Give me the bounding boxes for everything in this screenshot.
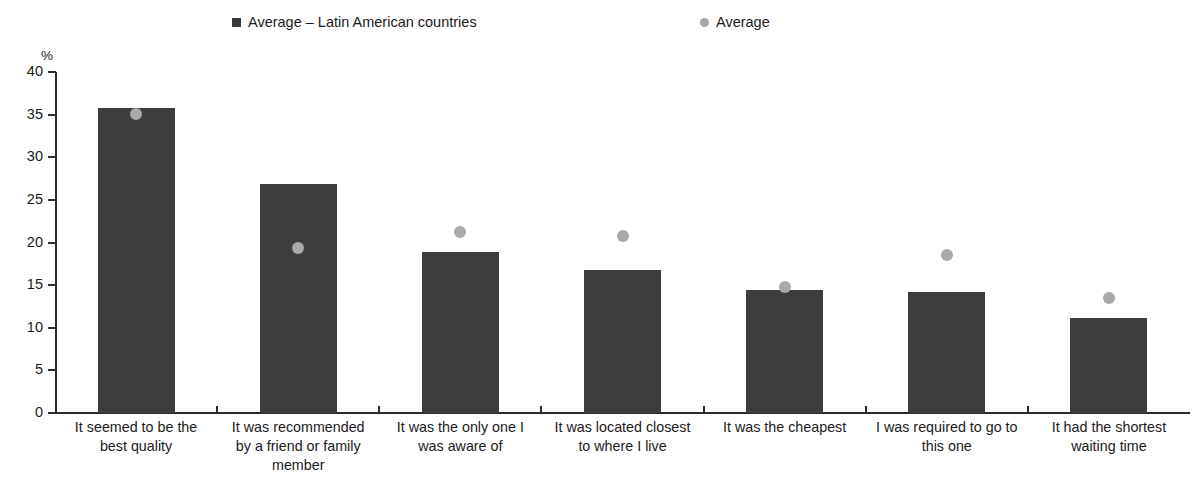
y-axis-tick <box>48 114 56 116</box>
legend-label-average: Average <box>716 14 770 30</box>
x-axis-category-label: It was the cheapest <box>704 418 866 437</box>
x-axis-category-label: It was the only one I was aware of <box>379 418 541 456</box>
legend-item-average[interactable]: Average <box>700 14 770 30</box>
y-axis-tick-label: 20 <box>9 234 43 250</box>
data-point-marker[interactable] <box>941 249 953 261</box>
bar[interactable] <box>260 184 337 413</box>
y-axis-tick <box>48 327 56 329</box>
x-axis-tick <box>216 406 218 414</box>
x-axis-tick <box>703 406 705 414</box>
y-axis-unit-label: % <box>41 48 53 63</box>
bar[interactable] <box>98 108 175 413</box>
y-axis-tick <box>48 412 56 414</box>
y-axis-tick <box>48 284 56 286</box>
legend-circle-marker-icon <box>700 18 709 27</box>
chart-legend: Average – Latin American countries Avera… <box>0 0 1192 40</box>
y-axis-tick-label: 25 <box>9 191 43 207</box>
bar[interactable] <box>584 270 661 413</box>
y-axis-tick-label: 40 <box>9 63 43 79</box>
legend-label-latin-american: Average – Latin American countries <box>248 14 477 30</box>
y-axis-tick-label: 5 <box>9 361 43 377</box>
y-axis-tick <box>48 242 56 244</box>
legend-item-average-latin-american-countries[interactable]: Average – Latin American countries <box>232 14 477 30</box>
plot-area: % 4035302520151050 It seemed to be the b… <box>0 40 1192 483</box>
chart-container: Average – Latin American countries Avera… <box>0 0 1192 483</box>
y-axis-tick-label: 35 <box>9 106 43 122</box>
x-axis-tick <box>378 406 380 414</box>
data-point-marker[interactable] <box>779 281 791 293</box>
y-axis-tick <box>48 156 56 158</box>
data-point-marker[interactable] <box>454 226 466 238</box>
y-axis-tick-label: 0 <box>9 404 43 420</box>
y-axis-tick <box>48 369 56 371</box>
data-point-marker[interactable] <box>617 230 629 242</box>
data-point-marker[interactable] <box>130 108 142 120</box>
x-axis-tick <box>1027 406 1029 414</box>
x-axis-category-label: It seemed to be the best quality <box>55 418 217 456</box>
bar[interactable] <box>1070 318 1147 413</box>
bar[interactable] <box>422 252 499 413</box>
bar[interactable] <box>908 292 985 413</box>
bar[interactable] <box>746 290 823 413</box>
y-axis-tick <box>48 199 56 201</box>
x-axis-tick <box>865 406 867 414</box>
x-axis-category-label: I was required to go to this one <box>866 418 1028 456</box>
data-point-marker[interactable] <box>1103 292 1115 304</box>
x-axis-tick <box>540 406 542 414</box>
x-axis-category-label: It was recommended by a friend or family… <box>217 418 379 475</box>
x-axis-category-label: It had the shortest waiting time <box>1028 418 1190 456</box>
legend-square-marker-icon <box>232 18 241 27</box>
y-axis-tick <box>48 71 56 73</box>
y-axis-tick-label: 30 <box>9 148 43 164</box>
y-axis-tick-label: 15 <box>9 276 43 292</box>
y-axis-tick-label: 10 <box>9 319 43 335</box>
x-axis-category-label: It was located closest to where I live <box>541 418 703 456</box>
